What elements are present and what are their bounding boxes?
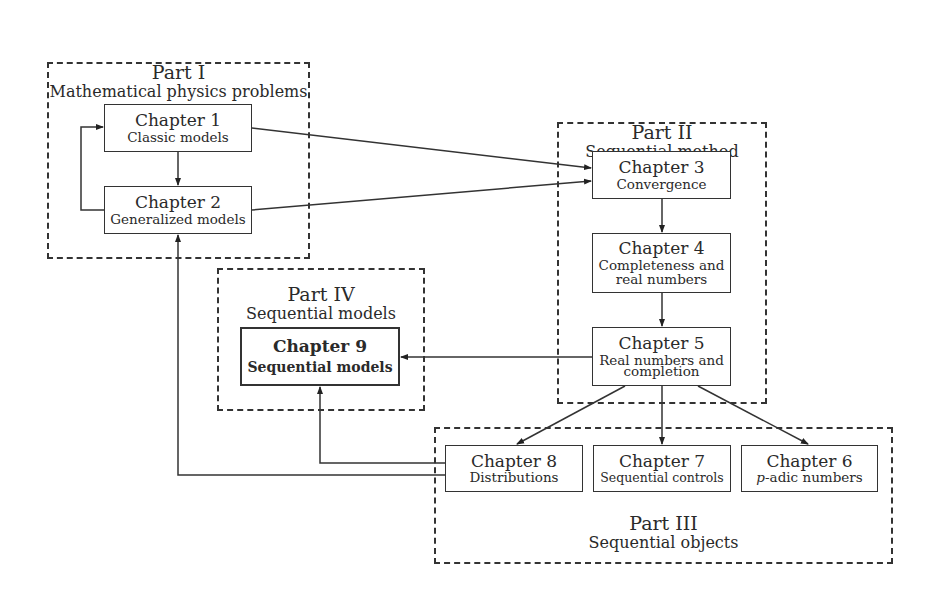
chapter-1-box[interactable]: Chapter 1 Classic models	[104, 104, 252, 152]
chapter-8-box[interactable]: Chapter 8 Distributions	[445, 445, 583, 492]
part-3-number: Part III	[436, 513, 891, 534]
chapter-1-number: Chapter 1	[105, 111, 251, 130]
chapter-3-box[interactable]: Chapter 3 Convergence	[592, 151, 731, 199]
chapter-8-title: Distributions	[446, 470, 582, 485]
part-3-title: Sequential objects	[436, 534, 891, 552]
chapter-6-title-rest: -adic numbers	[765, 469, 863, 485]
chapter-4-box[interactable]: Chapter 4 Completeness and real numbers	[592, 233, 731, 293]
chapter-1-title: Classic models	[105, 130, 251, 145]
chapter-8-number: Chapter 8	[446, 452, 582, 471]
chapter-2-box[interactable]: Chapter 2 Generalized models	[104, 186, 252, 234]
chapter-9-box[interactable]: Chapter 9 Sequential models	[240, 327, 400, 386]
chapter-6-number: Chapter 6	[742, 452, 877, 471]
chapter-2-number: Chapter 2	[105, 193, 251, 212]
part-4-number: Part IV	[219, 284, 423, 305]
chapter-7-number: Chapter 7	[594, 452, 730, 471]
chapter-4-title-line1: Completeness and	[593, 258, 730, 273]
chapter-9-number: Chapter 9	[242, 337, 398, 356]
part-1-title: Mathematical physics problems	[49, 83, 308, 101]
chapter-5-box[interactable]: Chapter 5 Real numbers and completion	[592, 327, 731, 386]
chapter-6-title: p-adic numbers	[742, 470, 877, 485]
part-1-number: Part I	[49, 62, 308, 83]
chapter-4-number: Chapter 4	[593, 239, 730, 258]
chapter-7-title: Sequential controls	[594, 471, 730, 485]
chapter-2-title: Generalized models	[105, 212, 251, 227]
chapter-5-title-line2: completion	[593, 364, 730, 379]
part-4-title: Sequential models	[219, 305, 423, 323]
part-4-heading: Part IV Sequential models	[219, 284, 423, 322]
chapter-6-box[interactable]: Chapter 6 p-adic numbers	[741, 445, 878, 492]
part-3-heading: Part III Sequential objects	[436, 513, 891, 551]
chapter-9-title: Sequential models	[242, 360, 398, 375]
chapter-7-box[interactable]: Chapter 7 Sequential controls	[593, 445, 731, 492]
chapter-3-number: Chapter 3	[593, 158, 730, 177]
part-2-number: Part II	[559, 122, 765, 143]
part-1-heading: Part I Mathematical physics problems	[49, 62, 308, 100]
chapter-4-title-line2: real numbers	[593, 272, 730, 287]
chapter-6-title-italic: p	[756, 469, 765, 485]
chapter-5-number: Chapter 5	[593, 334, 730, 353]
chapter-3-title: Convergence	[593, 177, 730, 192]
